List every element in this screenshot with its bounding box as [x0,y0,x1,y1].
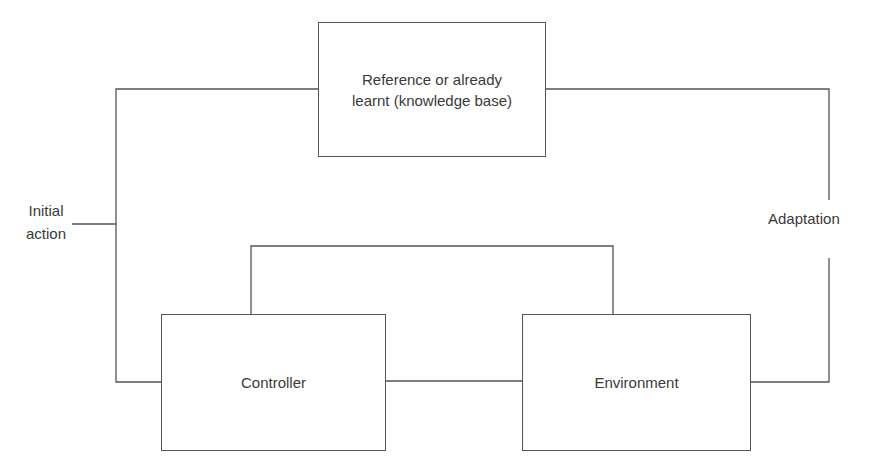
right-feedback-line-upper [545,89,829,200]
controller-label: Controller [241,372,306,393]
diagram-canvas: Reference or already learnt (knowledge b… [0,0,877,473]
right-feedback-line-lower [750,258,829,382]
initial-action-label-line2: action [22,222,70,245]
knowledge-base-label-line1: Reference or already [352,69,512,90]
adaptation-label-text: Adaptation [768,210,840,227]
environment-box: Environment [522,314,751,451]
knowledge-base-label-line2: learnt (knowledge base) [352,90,512,111]
controller-box: Controller [161,314,386,451]
initial-action-label-line1: Initial [22,199,70,222]
environment-label: Environment [594,372,678,393]
upper-loop-line [251,246,613,314]
knowledge-base-label: Reference or already learnt (knowledge b… [352,69,512,111]
knowledge-base-box: Reference or already learnt (knowledge b… [318,22,546,157]
initial-action-label: Initial action [22,199,70,245]
adaptation-label: Adaptation [768,207,840,230]
